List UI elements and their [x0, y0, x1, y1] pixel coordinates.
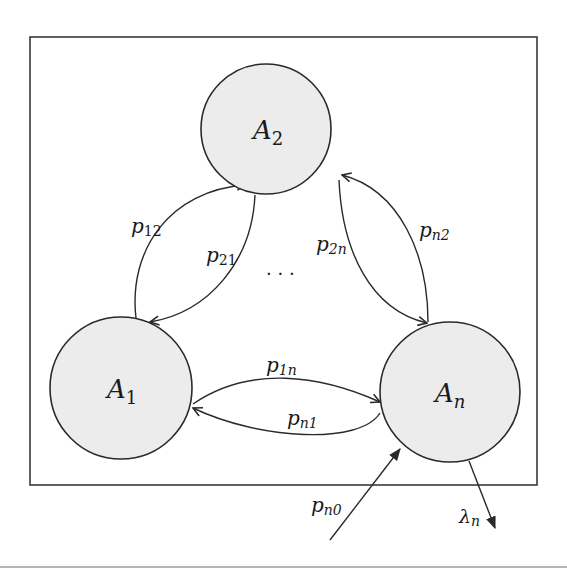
label-pn0: pn0: [311, 493, 342, 518]
label-p21: p21: [206, 243, 237, 268]
node-a2: A2: [201, 64, 331, 194]
label-pn1: pn1: [287, 406, 318, 431]
label-p2n: p2n: [316, 232, 347, 257]
edge-pn0-inflow: [330, 449, 400, 540]
label-lambda-n: λn: [458, 505, 480, 529]
node-a1: A1: [50, 317, 192, 459]
label-p1n: p1n: [266, 353, 297, 378]
ellipsis-more-nodes: · · ·: [266, 263, 295, 284]
edge-pn2: [342, 175, 428, 322]
edge-p1n: [193, 378, 380, 404]
edge-p21: [150, 195, 255, 322]
node-an: An: [380, 322, 520, 462]
edge-p2n: [339, 180, 427, 323]
markov-chain-diagram: A2 A1 An p12 p21 p2n pn2 p1n pn1 pn0 λn …: [0, 0, 567, 569]
label-p12: p12: [131, 214, 162, 239]
label-pn2: pn2: [419, 218, 450, 243]
